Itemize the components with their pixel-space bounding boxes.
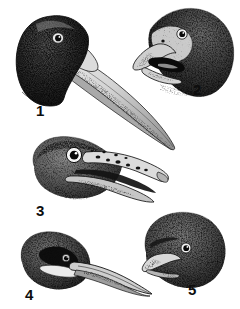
figure-3-eye-catchlight bbox=[75, 152, 78, 155]
figure-label-2: 2 bbox=[193, 82, 201, 97]
figure-label-5: 5 bbox=[188, 282, 196, 297]
figure-label-1: 1 bbox=[36, 103, 44, 118]
figure-2-eye-catchlight bbox=[182, 32, 184, 34]
figure-label-4: 4 bbox=[25, 287, 33, 302]
figure-3-eye bbox=[70, 151, 79, 160]
illustration-plate: 1 2 3 4 5 bbox=[0, 0, 240, 309]
figure-1-eye bbox=[55, 35, 61, 41]
figure-1-eye-catchlight bbox=[59, 36, 61, 38]
figure-label-3: 3 bbox=[36, 203, 44, 218]
figure-2-nostril bbox=[161, 40, 164, 43]
figure-4-eye-catchlight bbox=[67, 256, 68, 257]
figure-5-eye bbox=[183, 245, 189, 251]
figure-2-eye bbox=[179, 31, 185, 37]
plate-svg bbox=[0, 0, 240, 309]
figure-5-eye-catchlight bbox=[187, 246, 189, 248]
